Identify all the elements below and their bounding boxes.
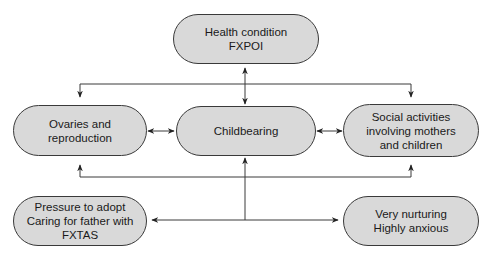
node-label: Health condition bbox=[205, 25, 287, 39]
node-label: Very nurturing bbox=[374, 207, 449, 221]
node-ovaries-reproduction: Ovaries and reproduction bbox=[13, 105, 147, 156]
node-childbearing: Childbearing bbox=[176, 106, 316, 156]
node-label: Childbearing bbox=[214, 124, 279, 138]
node-label: reproduction bbox=[48, 131, 112, 145]
node-label: Caring for father with bbox=[27, 214, 134, 228]
node-social-activities: Social activities involving mothers and … bbox=[343, 104, 479, 157]
node-label: involving mothers bbox=[366, 124, 455, 138]
node-label: FXPOI bbox=[205, 39, 287, 53]
node-pressure-to-adopt: Pressure to adopt Caring for father with… bbox=[13, 196, 147, 246]
node-label: Social activities bbox=[366, 110, 455, 124]
node-label: FXTAS bbox=[27, 228, 134, 242]
node-label: Highly anxious bbox=[374, 221, 449, 235]
node-very-nurturing: Very nurturing Highly anxious bbox=[343, 196, 479, 246]
node-health-condition: Health condition FXPOI bbox=[173, 14, 319, 64]
node-label: Pressure to adopt bbox=[27, 200, 134, 214]
node-label: Ovaries and bbox=[48, 117, 112, 131]
node-label: and children bbox=[366, 138, 455, 152]
